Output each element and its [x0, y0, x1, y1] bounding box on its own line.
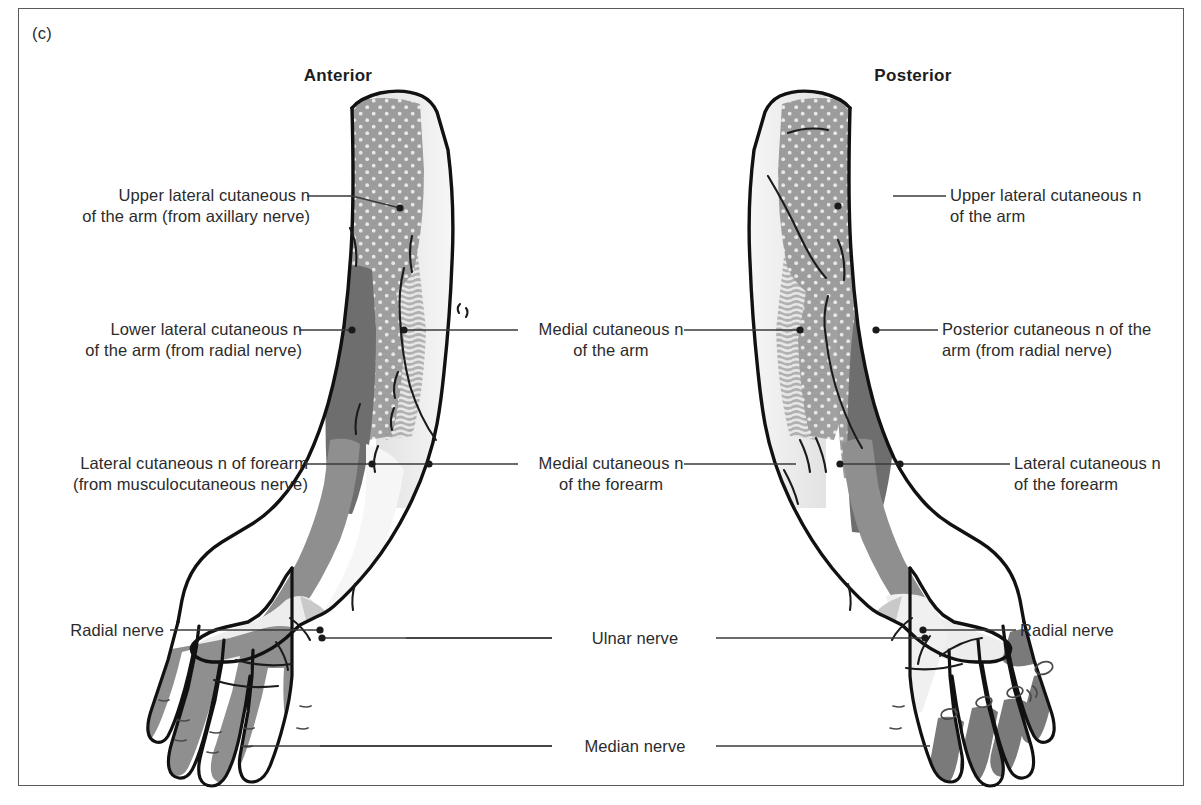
label-upper-lateral-cutaneous-arm-anterior: Upper lateral cutaneous n of the arm (fr…	[20, 185, 310, 227]
label-median-nerve: Median nerve	[555, 736, 715, 757]
label-line-2: of the arm	[950, 206, 1200, 227]
label-line-1: Ulnar nerve	[592, 629, 678, 647]
figure-frame	[18, 8, 1184, 786]
anterior-view-title: Anterior	[278, 66, 398, 86]
panel-letter: (c)	[32, 24, 52, 43]
label-line-1: Upper lateral cutaneous n	[119, 186, 310, 204]
label-line-2: of the arm (from axillary nerve)	[20, 206, 310, 227]
label-line-1: Lateral cutaneous n	[1014, 454, 1161, 472]
label-line-1: Lower lateral cutaneous n	[111, 320, 302, 338]
label-lower-lateral-cutaneous-arm-anterior: Lower lateral cutaneous n of the arm (fr…	[20, 319, 302, 361]
label-ulnar-nerve: Ulnar nerve	[555, 628, 715, 649]
label-line-1: Upper lateral cutaneous n	[950, 186, 1141, 204]
label-line-1: Median nerve	[584, 737, 685, 755]
label-medial-cutaneous-arm: Medial cutaneous n of the arm	[521, 319, 701, 361]
label-line-2: (from musculocutaneous nerve)	[16, 474, 308, 495]
label-line-1: Radial nerve	[1020, 621, 1114, 639]
posterior-view-title: Posterior	[848, 66, 978, 86]
label-line-1: Radial nerve	[70, 621, 164, 639]
label-radial-nerve-right: Radial nerve	[1020, 620, 1180, 641]
label-line-2: of the arm	[521, 340, 701, 361]
label-line-2: of the arm (from radial nerve)	[20, 340, 302, 361]
label-line-1: Lateral cutaneous n of forearm	[80, 454, 308, 472]
label-line-1: Medial cutaneous n	[539, 454, 684, 472]
label-line-1: Medial cutaneous n	[539, 320, 684, 338]
label-line-2: of the forearm	[1014, 474, 1200, 495]
label-line-2: arm (from radial nerve)	[942, 340, 1200, 361]
label-medial-cutaneous-forearm: Medial cutaneous n of the forearm	[521, 453, 701, 495]
label-upper-lateral-cutaneous-arm-posterior: Upper lateral cutaneous n of the arm	[950, 185, 1200, 227]
label-line-1: Posterior cutaneous n of the	[942, 320, 1151, 338]
label-lateral-cutaneous-forearm-anterior: Lateral cutaneous n of forearm (from mus…	[16, 453, 308, 495]
label-lateral-cutaneous-forearm-posterior: Lateral cutaneous n of the forearm	[1014, 453, 1200, 495]
label-posterior-cutaneous-arm: Posterior cutaneous n of the arm (from r…	[942, 319, 1200, 361]
label-line-2: of the forearm	[521, 474, 701, 495]
label-radial-nerve-left: Radial nerve	[20, 620, 164, 641]
